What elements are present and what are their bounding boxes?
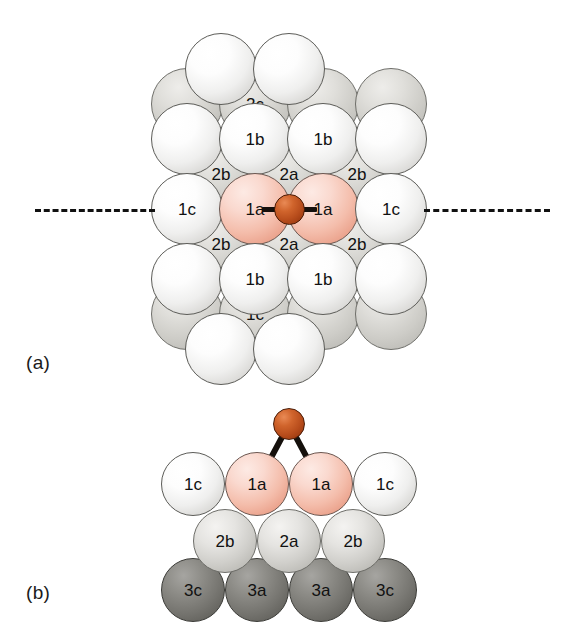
atom-label: 2b: [348, 236, 367, 253]
atom-layer2-2b: 2b: [193, 509, 257, 573]
section-plane-dashed-line-right: [424, 209, 550, 212]
atom-label: 2a: [280, 166, 299, 183]
section-plane-dashed-line-left: [35, 209, 155, 212]
atom-label: 1a: [248, 476, 267, 493]
atom-layer1-1c: 1c: [353, 452, 417, 516]
atom-layer1-1b: 1b: [287, 103, 359, 175]
atom-label: 1b: [246, 131, 265, 148]
atom-layer1-1b: 1b: [287, 243, 359, 315]
atom-label: 2a: [280, 236, 299, 253]
atom-label: 1c: [382, 201, 400, 218]
atom-layer1-1a: 1a: [289, 452, 353, 516]
atom-layer1: [151, 243, 223, 315]
atom-label: 2b: [348, 166, 367, 183]
panel-a-label: (a): [26, 352, 50, 374]
atom-label: 2b: [344, 533, 363, 550]
atom-label: 1c: [178, 201, 196, 218]
atom-label: 1b: [246, 271, 265, 288]
atom-layer1: [355, 243, 427, 315]
atom-label: 2a: [280, 533, 299, 550]
atom-label: 2b: [212, 236, 231, 253]
atom-layer1-1c: 1c: [355, 173, 427, 245]
atom-label: 1a: [312, 476, 331, 493]
atom-label: 3a: [312, 582, 331, 599]
panel-a-adatom: [274, 194, 305, 225]
atom-layer1: [355, 103, 427, 175]
atom-layer1-1c: 1c: [151, 173, 223, 245]
atom-label: 1b: [314, 131, 333, 148]
atom-layer1: [185, 33, 257, 105]
panel-b-adatom: [273, 408, 305, 440]
atom-label: 2b: [212, 166, 231, 183]
figure-canvas: 2c2b2a2b2b2a2b1c 1b1b1c1a1a1c1b1b (a) 3c…: [0, 0, 578, 636]
atom-layer1-1c: 1c: [161, 452, 225, 516]
atom-layer1: [151, 103, 223, 175]
panel-b-label: (b): [26, 582, 50, 604]
atom-label: 3c: [376, 582, 394, 599]
atom-label: 1c: [376, 476, 394, 493]
atom-label: 2b: [216, 533, 235, 550]
atom-layer1-1b: 1b: [219, 103, 291, 175]
atom-label: 1b: [314, 271, 333, 288]
atom-layer2-2a: 2a: [257, 509, 321, 573]
atom-layer2-2b: 2b: [321, 509, 385, 573]
atom-label: 3a: [248, 582, 267, 599]
atom-layer1-1a: 1a: [225, 452, 289, 516]
atom-layer1: [185, 313, 257, 385]
atom-label: 1c: [184, 476, 202, 493]
atom-layer1: [253, 33, 325, 105]
atom-layer1-1b: 1b: [219, 243, 291, 315]
atom-label: 3c: [184, 582, 202, 599]
atom-layer1: [253, 313, 325, 385]
